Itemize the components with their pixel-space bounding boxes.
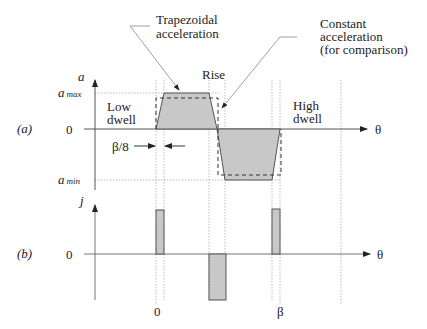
x-tick-beta: β bbox=[277, 304, 284, 319]
constant-label-3: (for comparison) bbox=[320, 42, 408, 57]
a-min-label: amin bbox=[58, 172, 81, 187]
panel-b-axes bbox=[84, 205, 370, 300]
beta8-label: β/8 bbox=[112, 139, 129, 154]
trapezoidal-label-1: Trapezoidal bbox=[156, 12, 218, 27]
j-zero-label: 0 bbox=[66, 247, 73, 262]
trapezoidal-acceleration-diagram: (a) a amax 0 amin θ Low dwell Rise High … bbox=[0, 0, 427, 329]
rise-label: Rise bbox=[202, 67, 225, 82]
high-dwell-label-2: dwell bbox=[293, 111, 322, 126]
a-max-label: amax bbox=[58, 85, 82, 100]
trapezoidal-label-2: acceleration bbox=[156, 26, 219, 41]
x-tick-zero: 0 bbox=[154, 304, 161, 319]
a-zero-label: 0 bbox=[66, 122, 73, 137]
panel-b-label: (b) bbox=[17, 246, 32, 261]
theta-axis-label-a: θ bbox=[375, 122, 381, 137]
j-axis-label: j bbox=[78, 193, 84, 208]
a-axis-label: a bbox=[78, 69, 85, 84]
low-dwell-label-2: dwell bbox=[107, 112, 136, 127]
theta-axis-label-b: θ bbox=[377, 247, 383, 262]
panel-a-label: (a) bbox=[17, 121, 32, 136]
